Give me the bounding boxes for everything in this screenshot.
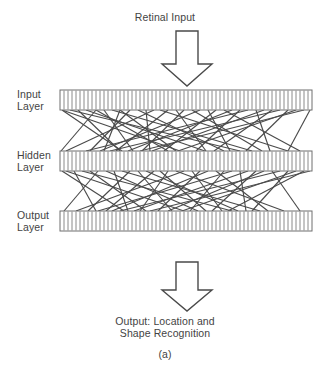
output-layer-label-line2: Layer — [17, 221, 44, 233]
hidden-layer-label-line1: Hidden — [17, 149, 51, 161]
neural-network-architecture-figure: Retinal Input InputLayer HiddenLayer Out… — [0, 0, 330, 367]
output-layer-label-line1: Output — [17, 209, 49, 221]
input-layer-label-line2: Layer — [17, 100, 44, 112]
hidden-to-output-connections — [62, 171, 310, 211]
input-layer-label: InputLayer — [17, 88, 65, 113]
retinal-input-title: Retinal Input — [0, 11, 330, 23]
output-arrow — [162, 262, 212, 311]
connection-line — [86, 110, 205, 151]
output-caption: Output: Location andShape Recognition — [0, 315, 330, 340]
hidden-layer-label: HiddenLayer — [17, 149, 65, 174]
output-layer-bar — [60, 211, 312, 231]
output-caption-line1: Output: Location and — [115, 315, 215, 327]
figure-canvas — [0, 0, 330, 367]
hidden-layer-label-line2: Layer — [17, 161, 44, 173]
input-to-hidden-connections — [61, 110, 310, 151]
input-layer-bar — [60, 90, 312, 110]
output-layer-label: OutputLayer — [17, 209, 65, 234]
input-layer-label-line1: Input — [17, 88, 41, 100]
retinal-input-arrow — [162, 31, 212, 86]
input-layer-bar-outline — [60, 90, 312, 110]
subfigure-label: (a) — [0, 348, 330, 360]
hidden-layer-bar — [60, 151, 312, 171]
connection-line — [82, 171, 232, 211]
connection-line — [288, 110, 310, 151]
output-layer-bar-outline — [60, 211, 312, 231]
output-caption-line2: Shape Recognition — [120, 327, 210, 339]
hidden-layer-bar-outline — [60, 151, 312, 171]
